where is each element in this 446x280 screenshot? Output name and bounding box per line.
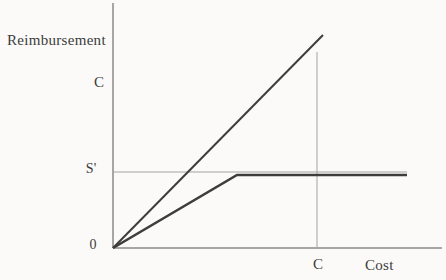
x-axis-title: Cost xyxy=(365,257,394,274)
x-tick-label-c: C xyxy=(313,256,323,273)
origin-label: 0 xyxy=(90,237,97,253)
capped-reimbursement-line xyxy=(113,175,407,248)
y-axis-title: Reimbursement xyxy=(7,32,106,49)
full-cost-reimbursement-line xyxy=(113,35,323,248)
y-tick-label-s-prime: S' xyxy=(86,161,96,177)
y-tick-label-c: C xyxy=(94,74,104,91)
reimbursement-cost-chart: Reimbursement C S' 0 C Cost xyxy=(0,0,446,280)
